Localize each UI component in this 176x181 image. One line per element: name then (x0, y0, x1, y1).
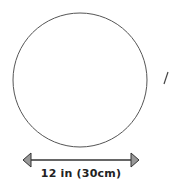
partial-mark (164, 72, 168, 84)
dimension-arrow (23, 153, 139, 167)
dimension-label: 12 in (30cm) (0, 167, 162, 180)
arrowhead-right-icon (131, 153, 139, 167)
circle-shape (13, 13, 147, 147)
arrowhead-left-icon (23, 153, 31, 167)
diagram-canvas (0, 0, 176, 181)
